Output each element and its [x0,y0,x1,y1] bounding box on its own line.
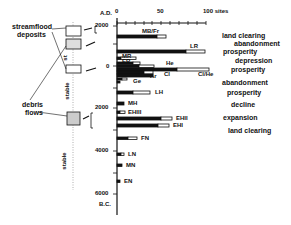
y-tick-0: 0 [106,63,109,69]
ad-label: A.D. [100,10,112,16]
y-tick-2000bc: 2000 [95,104,108,110]
bar-label-lr: LR [190,43,198,49]
y-tick-2000ad: 2000 [95,22,108,28]
bar-label-mh: MH [128,100,137,106]
flows-label: flows [25,109,43,116]
event-prosperity-2: prosperity [231,66,265,73]
x-tick-0: 0 [115,8,118,14]
y-tick-6000: 6000 [95,190,108,196]
bar-label-lh: LH [155,89,163,95]
debris-label: debris [22,101,43,108]
bar-label-ln: LN [128,151,136,157]
bar-label-ehiii: EHIII [128,109,141,115]
event-decline: decline [231,101,255,108]
stable-label-1: stable [64,82,70,99]
bar-label-ar: Ar [150,73,157,79]
bar-label-clhe: Cl/He [198,71,213,77]
event-land-clearing-1: land clearing [222,32,265,39]
bc-label: B.C. [99,201,111,207]
bar-label-ehii: EHII [176,115,188,121]
x-tick-50: 50 [157,8,164,14]
bar-label-en: EN [124,178,132,184]
event-prosperity-1: prosperity [223,48,257,55]
streamflood-label: streamflood [12,23,52,30]
event-abandonment-1: abandonment [234,40,280,47]
bar-label-he: He [166,60,174,66]
event-prosperity-3: prosperity [227,89,261,96]
event-expansion: expansion [223,114,258,121]
bar-label-mn: MN [126,162,135,168]
bar-label-ge: Ge [133,78,141,84]
x-tick-100: 100 sites [203,8,228,14]
event-abandonment-2: abandonment [222,79,268,86]
y-tick-4000: 4000 [95,147,108,153]
event-depression: depression [235,57,272,64]
bar-label-mbfr: MB/Fr [142,28,159,34]
event-land-clearing-2: land clearing [228,127,271,134]
bar-label-ehi: EHI [173,122,183,128]
bar-label-fn: FN [141,135,149,141]
bar-label-er: ER [122,58,130,64]
stable-label-2: stable [61,152,67,169]
bar-label-cl: Cl [164,71,170,77]
deposits-label: deposits [17,31,46,38]
st-label: st [62,55,68,60]
